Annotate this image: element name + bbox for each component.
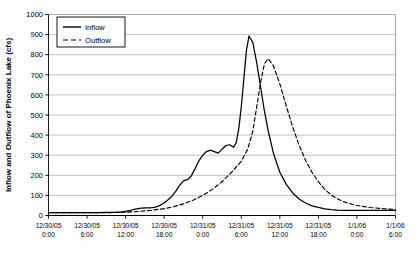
x-tick-label-time: 0:00 (351, 231, 364, 238)
x-tick-label-time: 0:00 (42, 231, 55, 238)
y-tick-label: 500 (30, 111, 43, 120)
y-tick-label: 0 (39, 211, 43, 220)
x-tick-label-time: 12:00 (117, 231, 134, 238)
x-tick-label-time: 18:00 (156, 231, 173, 238)
x-tick-label-date: 12/31/05 (228, 222, 254, 229)
x-tick-label-time: 6:00 (81, 231, 94, 238)
x-tick-label-time: 18:00 (310, 231, 327, 238)
x-axis: 12/30/050:0012/30/056:0012/30/0512:0012/… (36, 216, 405, 238)
legend-label-outflow: Outflow (85, 36, 111, 45)
x-tick-label-date: 12/30/05 (74, 222, 100, 229)
x-tick-label-time: 6:00 (235, 231, 248, 238)
x-tick-label-date: 12/31/05 (306, 222, 332, 229)
y-tick-label: 600 (30, 91, 43, 100)
x-tick-label-time: 6:00 (389, 231, 402, 238)
y-tick-label: 100 (30, 191, 43, 200)
y-tick-label: 200 (30, 171, 43, 180)
x-tick-label-date: 1/1/06 (348, 222, 367, 229)
y-axis: 01002003004005006007008009001000 (26, 10, 48, 220)
x-tick-label-date: 12/31/05 (190, 222, 216, 229)
x-tick-label-time: 12:00 (272, 231, 289, 238)
inflow-outflow-line-chart: 0100200300400500600700800900100012/30/05… (0, 0, 416, 257)
y-tick-label: 1000 (26, 10, 43, 19)
x-tick-label-date: 12/30/05 (113, 222, 139, 229)
hydrograph-figure: 0100200300400500600700800900100012/30/05… (0, 0, 416, 257)
x-tick-label-date: 12/30/05 (36, 222, 62, 229)
x-tick-label-date: 1/1/06 (386, 222, 405, 229)
y-tick-label: 400 (30, 131, 43, 140)
x-tick-label-date: 12/31/05 (267, 222, 293, 229)
legend: InflowOutflow (57, 17, 125, 47)
x-tick-label-date: 12/30/05 (151, 222, 177, 229)
y-tick-label: 800 (30, 50, 43, 59)
y-tick-label: 300 (30, 151, 43, 160)
y-tick-label: 700 (30, 71, 43, 80)
x-tick-label-time: 0:00 (196, 231, 209, 238)
legend-label-inflow: Inflow (85, 23, 105, 32)
y-tick-label: 900 (30, 30, 43, 39)
y-axis-title: Inflow and Outflow of Phoenix Lake (cfs) (4, 38, 13, 193)
